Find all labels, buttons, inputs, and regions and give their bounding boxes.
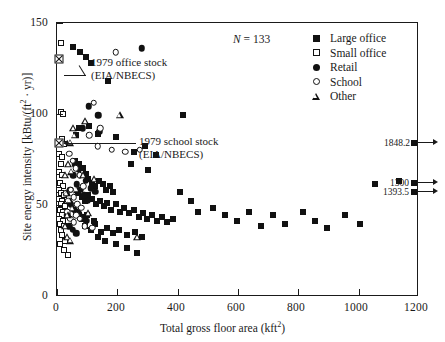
y-tick-mark-100	[57, 114, 63, 115]
sample-size-label: N = 133	[233, 33, 270, 45]
annotation-school-stock-line2: (EIA/NBECS)	[139, 148, 218, 161]
data-point-other	[69, 124, 77, 131]
offscale-marker-upper	[411, 140, 417, 146]
data-point-school	[97, 125, 104, 132]
data-point-small-office	[65, 252, 71, 258]
data-point-other	[61, 222, 69, 229]
data-point-large-office	[95, 234, 101, 240]
data-point-large-office	[170, 216, 176, 222]
data-point-small-office	[59, 154, 65, 160]
data-point-other	[81, 117, 89, 124]
data-point-large-office	[113, 201, 119, 207]
data-point-school	[86, 132, 93, 139]
data-point-school	[113, 49, 120, 56]
filled-square-icon	[309, 31, 323, 45]
legend-label-school: School	[330, 76, 362, 88]
x-tick-mark-200	[117, 289, 118, 295]
x-axis-title-end: )	[281, 322, 285, 334]
legend-item-school[interactable]: School	[309, 75, 386, 90]
data-point-school	[122, 149, 129, 156]
offscale-arrow-head-lower-b	[433, 188, 438, 194]
data-point-other	[69, 204, 77, 211]
data-point-large-office	[145, 167, 151, 173]
data-point-other	[90, 175, 98, 182]
legend-item-small-office[interactable]: Small office	[309, 46, 386, 61]
data-point-large-office	[131, 207, 137, 213]
data-point-large-office	[113, 134, 119, 140]
data-point-other	[116, 112, 124, 119]
y-tick-label-50: 50	[8, 198, 48, 210]
filled-circle-icon	[309, 60, 323, 74]
data-point-large-office	[124, 245, 130, 251]
data-point-large-office	[113, 241, 119, 247]
data-point-small-office	[58, 161, 64, 167]
y-tick-label-100: 100	[8, 107, 48, 119]
data-point-large-office	[357, 221, 363, 227]
x-tick-label-800: 800	[273, 301, 319, 313]
data-point-other	[79, 171, 87, 178]
x-tick-label-200: 200	[93, 301, 139, 313]
data-point-retail	[80, 125, 87, 132]
sample-size-value: 133	[253, 33, 270, 45]
data-point-small-office	[58, 40, 64, 46]
data-point-large-office	[110, 230, 116, 236]
legend-label-other: Other	[330, 90, 356, 102]
data-point-large-office	[124, 232, 130, 238]
leader-line-office-horizontal	[64, 75, 86, 76]
data-point-retail	[95, 112, 102, 119]
y-axis-title-part-b: · yr)]	[21, 73, 33, 100]
data-point-large-office	[222, 212, 228, 218]
offscale-arrow-line-lower-a	[418, 182, 434, 183]
y-tick-mark-150	[57, 23, 63, 24]
data-point-large-office	[270, 212, 276, 218]
plot-frame: N = 133 Large office Small office Retail…	[56, 22, 418, 296]
x-tick-mark-1000	[359, 289, 360, 295]
x-axis-title-main: Total gross floor area (kft	[160, 322, 277, 334]
open-triangle-icon	[309, 89, 323, 103]
data-point-large-office	[110, 189, 116, 195]
data-point-large-office	[324, 225, 330, 231]
open-circle-icon	[309, 75, 323, 89]
legend-item-retail[interactable]: Retail	[309, 60, 386, 75]
data-point-large-office	[234, 218, 240, 224]
data-point-large-office	[282, 221, 288, 227]
data-point-other	[84, 210, 92, 217]
data-point-large-office	[128, 161, 134, 167]
y-axis-title-part-a: Site energy intensity [kBtu/(ft	[21, 104, 33, 241]
data-point-school	[108, 147, 115, 154]
data-point-other	[73, 186, 81, 193]
legend-item-large-office[interactable]: Large office	[309, 31, 386, 46]
legend-item-other[interactable]: Other	[309, 89, 386, 104]
x-axis-title: Total gross floor area (kft2)	[0, 320, 445, 334]
offscale-marker-lower-b	[411, 189, 417, 195]
x-tick-mark-1200	[417, 289, 418, 295]
data-point-other	[71, 132, 79, 139]
x-tick-mark-0	[57, 289, 58, 295]
data-point-large-office	[342, 212, 348, 218]
open-square-icon	[309, 46, 323, 60]
offscale-arrow-line-lower-b	[418, 191, 434, 192]
data-point-school	[66, 150, 73, 157]
x-tick-mark-800	[298, 289, 299, 295]
y-tick-mark-50	[57, 205, 63, 206]
y-tick-label-0: 0	[8, 289, 48, 301]
x-tick-mark-600	[238, 289, 239, 295]
data-point-large-office	[188, 198, 194, 204]
y-tick-label-150: 150	[8, 16, 48, 28]
data-point-large-office	[312, 218, 318, 224]
data-point-large-office	[210, 205, 216, 211]
sample-size-equals: =	[241, 33, 253, 45]
legend-label-small-office: Small office	[330, 47, 386, 59]
data-point-large-office	[246, 209, 252, 215]
reference-marker-office-stock	[55, 55, 64, 64]
data-point-large-office	[195, 209, 201, 215]
data-point-retail	[138, 45, 145, 52]
x-tick-label-400: 400	[153, 301, 199, 313]
data-point-large-office	[108, 207, 114, 213]
data-point-retail	[84, 197, 91, 204]
data-point-large-office	[102, 238, 108, 244]
data-point-other	[61, 171, 69, 178]
offscale-label-upper: 1848.2	[362, 138, 410, 149]
leader-line-school-horizontal	[64, 143, 136, 144]
x-tick-label-0: 0	[33, 301, 79, 313]
